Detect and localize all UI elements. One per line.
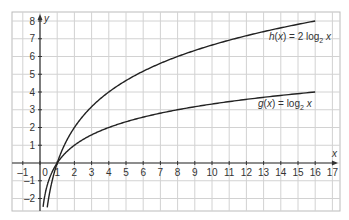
x-tick-label: 15 bbox=[292, 167, 304, 178]
x-tick-label: 8 bbox=[175, 167, 181, 178]
x-tick-label: 7 bbox=[158, 167, 164, 178]
y-tick-label: –2 bbox=[24, 193, 36, 204]
x-tick-label: 17 bbox=[327, 167, 339, 178]
x-tick-label: 9 bbox=[192, 167, 198, 178]
x-tick-label: 2 bbox=[72, 167, 78, 178]
y-tick-label: 2 bbox=[29, 122, 35, 133]
x-tick-label: 6 bbox=[140, 167, 146, 178]
y-tick-label: 6 bbox=[29, 51, 35, 62]
x-tick-label: 12 bbox=[241, 167, 253, 178]
y-tick-label: 8 bbox=[29, 16, 35, 27]
x-tick-label: 11 bbox=[224, 167, 235, 178]
y-tick-label: –1 bbox=[24, 175, 36, 186]
y-axis-label: y bbox=[43, 13, 50, 24]
x-tick-label: 16 bbox=[310, 167, 322, 178]
x-tick-label: 3 bbox=[89, 167, 95, 178]
x-tick-label: 4 bbox=[106, 167, 112, 178]
y-tick-label: 3 bbox=[29, 104, 35, 115]
x-axis-label: x bbox=[331, 148, 338, 159]
x-tick-label: 13 bbox=[258, 167, 270, 178]
y-tick-label: 4 bbox=[29, 87, 35, 98]
x-tick-label: 14 bbox=[275, 167, 287, 178]
x-tick-label: 0 bbox=[42, 167, 48, 178]
x-tick-label: 5 bbox=[123, 167, 129, 178]
x-tick-label: 10 bbox=[206, 167, 218, 178]
y-tick-label: 5 bbox=[29, 69, 35, 80]
log-function-chart: –101234567891011121314151617–2–112345678… bbox=[0, 0, 349, 220]
y-tick-label: 1 bbox=[29, 140, 35, 151]
y-tick-label: 7 bbox=[29, 33, 35, 44]
